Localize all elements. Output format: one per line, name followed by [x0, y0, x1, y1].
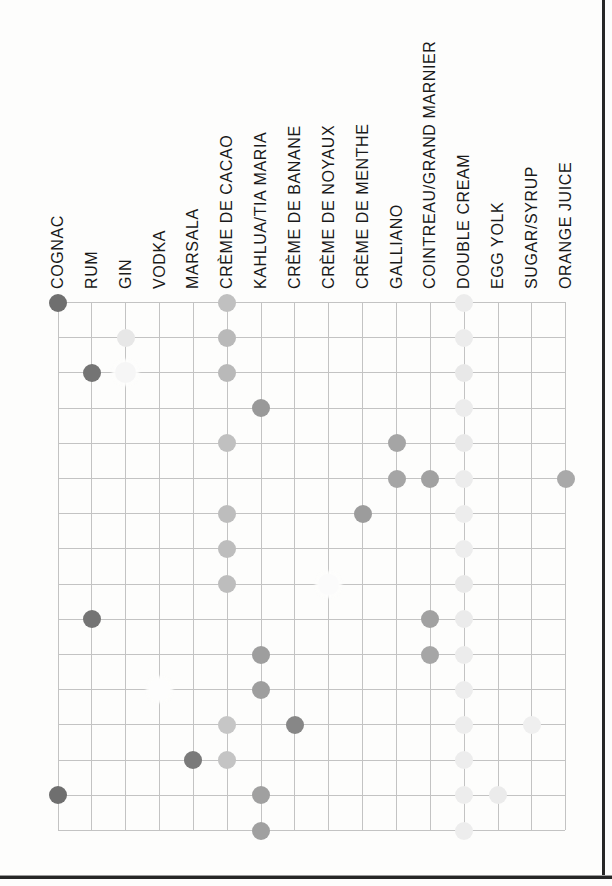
ingredient-dot-row13-sugar-syrup	[523, 716, 541, 734]
ingredient-dot-row14-marsala	[184, 751, 202, 769]
ingredient-dot-row1-cr-me-de-cacao	[218, 294, 236, 312]
column-label-gin: GIN	[116, 259, 135, 289]
ingredient-dot-row1-cognac	[49, 294, 67, 312]
ingredient-dot-row3-gin	[115, 362, 136, 383]
grid-line-vertical	[261, 302, 262, 830]
ingredient-dot-row5-cr-me-de-cacao	[218, 434, 236, 452]
ingredient-dot-row8-double-cream	[455, 540, 473, 558]
column-label-rum: RUM	[82, 251, 101, 289]
ingredient-dot-row13-double-cream	[455, 716, 473, 734]
ingredient-dot-row7-cr-me-de-menthe	[354, 505, 372, 523]
column-label-vodka: VODKA	[150, 230, 169, 289]
ingredient-dot-row15-double-cream	[455, 786, 473, 804]
column-label-double-cream: DOUBLE CREAM	[454, 154, 473, 289]
column-label-cr-me-de-menthe: CRÈME DE MENTHE	[353, 124, 372, 289]
column-label-cr-me-de-cacao: CRÈME DE CACAO	[217, 135, 236, 289]
ingredient-dot-row14-cr-me-de-cacao	[218, 751, 236, 769]
ingredient-dot-row11-cointreau-grand-marnier	[421, 646, 439, 664]
grid-line-vertical	[498, 302, 499, 830]
ingredient-dot-row6-double-cream	[455, 470, 473, 488]
ingredient-dot-row12-double-cream	[455, 681, 473, 699]
grid-line-vertical	[294, 302, 295, 830]
grid-line-vertical	[159, 302, 160, 830]
column-label-orange-juice: ORANGE JUICE	[556, 162, 575, 289]
grid-line-horizontal	[58, 302, 566, 303]
ingredient-dot-row12-vodka	[149, 679, 170, 700]
ingredient-dot-row2-double-cream	[455, 329, 473, 347]
ingredient-dot-row10-cointreau-grand-marnier	[421, 610, 439, 628]
grid-line-vertical	[328, 302, 329, 830]
grid-line-horizontal	[58, 408, 566, 409]
grid-line-vertical	[362, 302, 363, 830]
grid-line-horizontal	[58, 619, 566, 620]
ingredient-dot-row13-cr-me-de-cacao	[218, 716, 236, 734]
grid-line-vertical	[430, 302, 431, 830]
grid-line-horizontal	[58, 689, 566, 690]
ingredient-dot-row7-cr-me-de-cacao	[218, 505, 236, 523]
grid-line-horizontal	[58, 478, 566, 479]
ingredient-dot-row9-cr-me-de-cacao	[218, 575, 236, 593]
grid-line-horizontal	[58, 830, 566, 831]
column-label-cognac: COGNAC	[48, 215, 67, 289]
ingredient-dot-row5-galliano	[388, 434, 406, 452]
ingredient-dot-row11-kahlua-tia-maria	[252, 646, 270, 664]
grid-line-horizontal	[58, 724, 566, 725]
ingredient-dot-row3-double-cream	[455, 364, 473, 382]
grid-line-vertical	[565, 302, 566, 830]
ingredient-dot-row3-rum	[83, 364, 101, 382]
grid-line-horizontal	[58, 548, 566, 549]
ingredient-dot-row15-cognac	[49, 786, 67, 804]
ingredient-dot-row13-cr-me-de-banane	[286, 716, 304, 734]
grid-line-horizontal	[58, 513, 566, 514]
grid-line-horizontal	[58, 584, 566, 585]
ingredient-matrix-page: COGNACRUMGINVODKAMARSALACRÈME DE CACAOKA…	[0, 0, 612, 886]
ingredient-dot-row9-cr-me-de-noyaux	[318, 574, 339, 595]
grid-line-horizontal	[58, 654, 566, 655]
ingredient-dot-row16-double-cream	[455, 822, 473, 840]
ingredient-dot-row12-kahlua-tia-maria	[252, 681, 270, 699]
ingredient-dot-row5-double-cream	[455, 434, 473, 452]
grid-line-vertical	[531, 302, 532, 830]
column-label-sugar-syrup: SUGAR/SYRUP	[522, 166, 541, 289]
grid-line-horizontal	[58, 760, 566, 761]
ingredient-dot-row2-cr-me-de-cacao	[218, 329, 236, 347]
page-frame-bottom	[0, 875, 612, 879]
ingredient-dot-row8-cr-me-de-cacao	[218, 540, 236, 558]
ingredient-dot-row6-galliano	[388, 470, 406, 488]
ingredient-dot-row10-double-cream	[455, 610, 473, 628]
ingredient-dot-row16-kahlua-tia-maria	[252, 822, 270, 840]
ingredient-dot-row14-double-cream	[455, 751, 473, 769]
grid-line-vertical	[58, 302, 59, 830]
ingredient-dot-row15-egg-yolk	[489, 786, 507, 804]
ingredient-dot-row7-double-cream	[455, 505, 473, 523]
column-label-marsala: MARSALA	[183, 208, 202, 289]
ingredient-dot-row9-double-cream	[455, 575, 473, 593]
column-label-kahlua-tia-maria: KAHLUA/TIA MARIA	[251, 132, 270, 289]
ingredient-dot-row1-double-cream	[455, 294, 473, 312]
ingredient-dot-row11-double-cream	[455, 646, 473, 664]
ingredient-dot-row4-kahlua-tia-maria	[252, 399, 270, 417]
grid-line-vertical	[396, 302, 397, 830]
page-frame-right	[602, 0, 605, 878]
column-label-cr-me-de-banane: CRÈME DE BANANE	[285, 125, 304, 289]
column-label-cointreau-grand-marnier: COINTREAU/GRAND MARNIER	[420, 41, 439, 289]
ingredient-dot-row6-cointreau-grand-marnier	[421, 470, 439, 488]
ingredient-dot-row2-gin	[117, 329, 135, 347]
ingredient-dot-row10-rum	[83, 610, 101, 628]
column-label-egg-yolk: EGG YOLK	[488, 202, 507, 289]
column-label-galliano: GALLIANO	[387, 204, 406, 289]
column-label-cr-me-de-noyaux: CRÈME DE NOYAUX	[319, 125, 338, 289]
ingredient-dot-row15-kahlua-tia-maria	[252, 786, 270, 804]
ingredient-dot-row6-orange-juice	[557, 470, 575, 488]
ingredient-dot-row3-cr-me-de-cacao	[218, 364, 236, 382]
grid-line-horizontal	[58, 443, 566, 444]
ingredient-dot-row4-double-cream	[455, 399, 473, 417]
